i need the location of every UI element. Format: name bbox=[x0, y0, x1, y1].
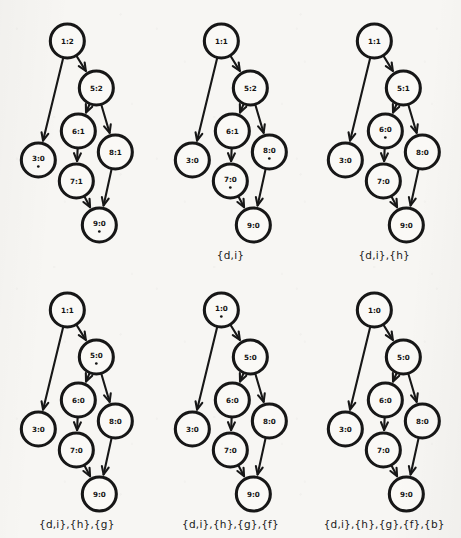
node-label: 7:0 bbox=[377, 177, 390, 186]
graph-node: 8:0 bbox=[406, 404, 440, 438]
graph-node: 1:2 bbox=[50, 24, 84, 58]
node-label: 1:1 bbox=[215, 37, 228, 46]
graph-panel: 1:15:26:13:08:07:09:0 {d,i} bbox=[154, 0, 308, 269]
graph-node: 8:1 bbox=[98, 135, 132, 169]
graph-node: 5:0 bbox=[387, 340, 421, 374]
graph-node: 8:0 bbox=[98, 404, 132, 438]
node-marked-dot bbox=[384, 136, 387, 139]
node-label: 1:0 bbox=[368, 306, 381, 315]
node-label: 9:0 bbox=[93, 490, 106, 499]
node-label: 6:1 bbox=[226, 127, 239, 136]
node-label: 7:1 bbox=[70, 177, 83, 186]
node-label: 8:0 bbox=[109, 417, 122, 426]
graph-node: 6:0 bbox=[369, 383, 403, 417]
node-marked-dot bbox=[98, 230, 101, 233]
node-label: 5:0 bbox=[244, 353, 257, 362]
panel-caption: {d,i} bbox=[154, 249, 308, 261]
node-label: 9:0 bbox=[400, 221, 413, 230]
node-label: 6:0 bbox=[226, 396, 239, 405]
node-label: 6:0 bbox=[379, 125, 392, 134]
graph-node: 5:0 bbox=[233, 340, 267, 374]
graph-node: 1:0 bbox=[204, 293, 238, 327]
graph-node: 8:0 bbox=[252, 404, 286, 438]
node-marked-dot bbox=[37, 165, 40, 168]
node-label: 8:1 bbox=[109, 148, 122, 157]
panel-caption: {d,i},{h},{g},{f} bbox=[154, 518, 308, 530]
graph-node: 5:0 bbox=[79, 340, 113, 374]
node-marked-dot bbox=[229, 186, 232, 189]
graph-node: 9:0 bbox=[82, 208, 116, 242]
graph-node: 6:0 bbox=[369, 114, 403, 148]
node-label: 5:0 bbox=[90, 351, 103, 360]
graph-node: 1:1 bbox=[204, 24, 238, 58]
graph-node: 1:1 bbox=[50, 293, 84, 327]
node-label: 3:0 bbox=[186, 425, 199, 434]
node-label: 5:0 bbox=[397, 353, 410, 362]
graph-node: 5:2 bbox=[79, 71, 113, 105]
node-label: 7:0 bbox=[70, 446, 83, 455]
node-label: 8:0 bbox=[416, 417, 429, 426]
graph-node: 9:0 bbox=[390, 477, 424, 511]
graph-node: 7:1 bbox=[59, 164, 93, 198]
panel-caption: {d,i},{h},{g},{f},{b} bbox=[307, 518, 461, 530]
node-label: 9:0 bbox=[247, 490, 260, 499]
graph-diagram: 1:25:26:13:08:17:19:0 bbox=[0, 0, 154, 269]
node-label: 1:1 bbox=[368, 37, 381, 46]
graph-node: 3:0 bbox=[175, 412, 209, 446]
graph-node: 9:0 bbox=[390, 208, 424, 242]
graph-node: 6:1 bbox=[61, 114, 95, 148]
graph-node: 8:0 bbox=[406, 135, 440, 169]
graph-node: 7:0 bbox=[367, 433, 401, 467]
panel-caption: {d,i},{h},{g} bbox=[0, 518, 154, 530]
node-label: 6:0 bbox=[72, 396, 85, 405]
node-label: 6:1 bbox=[72, 127, 85, 136]
graph-node: 6:0 bbox=[61, 383, 95, 417]
graph-node: 9:0 bbox=[236, 477, 270, 511]
node-marked-dot bbox=[220, 315, 223, 318]
node-label: 1:2 bbox=[61, 37, 74, 46]
graph-diagram: 1:15:16:03:08:07:09:0 bbox=[307, 0, 461, 269]
graph-diagram: 1:15:06:03:08:07:09:0 bbox=[0, 269, 154, 538]
node-label: 5:1 bbox=[397, 84, 410, 93]
graph-panel: 1:05:06:03:08:07:09:0 {d,i},{h},{g},{f} bbox=[154, 269, 308, 538]
graph-panel: 1:15:06:03:08:07:09:0 {d,i},{h},{g} bbox=[0, 269, 154, 538]
graph-node: 3:0 bbox=[329, 412, 363, 446]
node-label: 5:2 bbox=[244, 84, 257, 93]
node-label: 8:0 bbox=[416, 148, 429, 157]
node-label: 8:0 bbox=[263, 146, 276, 155]
node-label: 7:0 bbox=[224, 175, 237, 184]
node-label: 5:2 bbox=[90, 84, 103, 93]
graph-panel: 1:25:26:13:08:17:19:0 bbox=[0, 0, 154, 269]
node-label: 3:0 bbox=[32, 425, 45, 434]
node-label: 1:1 bbox=[61, 306, 74, 315]
graph-node: 8:0 bbox=[252, 135, 286, 169]
node-label: 3:0 bbox=[339, 156, 352, 165]
graph-node: 7:0 bbox=[59, 433, 93, 467]
node-label: 9:0 bbox=[400, 490, 413, 499]
node-label: 9:0 bbox=[93, 219, 106, 228]
node-marked-dot bbox=[268, 157, 271, 160]
node-label: 9:0 bbox=[247, 221, 260, 230]
node-label: 3:0 bbox=[32, 154, 45, 163]
graph-diagram: 1:15:26:13:08:07:09:0 bbox=[154, 0, 308, 269]
graph-node: 3:0 bbox=[21, 143, 55, 177]
graph-node: 3:0 bbox=[175, 143, 209, 177]
graph-node: 3:0 bbox=[21, 412, 55, 446]
node-label: 3:0 bbox=[339, 425, 352, 434]
node-label: 8:0 bbox=[263, 417, 276, 426]
graph-node: 5:1 bbox=[387, 71, 421, 105]
graph-panel-grid: 1:25:26:13:08:17:19:0 1:15:26:13:08:07:0… bbox=[0, 0, 461, 538]
graph-diagram: 1:05:06:03:08:07:09:0 bbox=[154, 269, 308, 538]
graph-panel: 1:15:16:03:08:07:09:0 {d,i},{h} bbox=[307, 0, 461, 269]
graph-node: 7:0 bbox=[367, 164, 401, 198]
graph-diagram: 1:05:06:03:08:07:09:0 bbox=[307, 269, 461, 538]
panel-caption: {d,i},{h} bbox=[307, 249, 461, 261]
graph-node: 1:1 bbox=[358, 24, 392, 58]
graph-node: 6:0 bbox=[215, 383, 249, 417]
graph-node: 7:0 bbox=[213, 433, 247, 467]
graph-panel: 1:05:06:03:08:07:09:0 {d,i},{h},{g},{f},… bbox=[307, 269, 461, 538]
node-label: 1:0 bbox=[215, 304, 228, 313]
node-marked-dot bbox=[95, 362, 98, 365]
node-label: 3:0 bbox=[186, 156, 199, 165]
node-label: 7:0 bbox=[377, 446, 390, 455]
